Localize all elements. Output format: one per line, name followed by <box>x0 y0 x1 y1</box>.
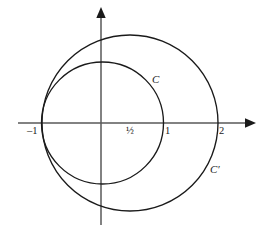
tick-label-two: 2 <box>219 126 224 137</box>
curve-label-c-prime: C′ <box>210 164 220 175</box>
figure-container: –1 ½ 1 2 C C′ <box>0 0 263 239</box>
y-axis-arrowhead-icon <box>96 7 105 18</box>
tick-label-one: 1 <box>165 126 170 137</box>
x-axis-arrowhead-icon <box>245 118 256 128</box>
curve-label-c: C <box>152 74 159 85</box>
tick-label-neg-one: –1 <box>27 126 38 137</box>
figure-canvas <box>0 0 263 239</box>
tick-label-half: ½ <box>126 126 134 137</box>
